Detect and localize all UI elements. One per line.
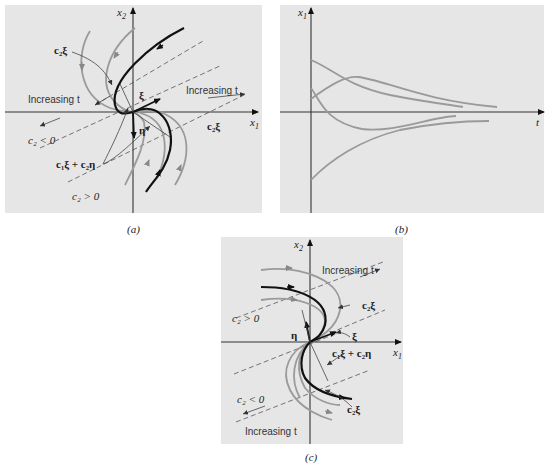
panel-a-caption: (a) — [127, 223, 140, 236]
panel-c-xi-label: ξ — [352, 330, 357, 343]
panel-a-c2-lt-0-label: c₂ < 0 — [28, 134, 56, 146]
panel-b-caption: (b) — [395, 223, 408, 236]
panel-a-c2xi-top-label: c₂ξ — [54, 44, 67, 57]
panel-c-c1xi-c2eta-label: c₁ξ + c₂η — [332, 347, 371, 360]
panel-c-caption: (c) — [305, 451, 318, 464]
figure-canvas: x2 x1 c₂ξ Increasing t Increasing t ξ η … — [0, 0, 549, 466]
panel-a-increasing-t-right-label: Increasing t — [186, 85, 238, 96]
panel-a-increasing-t-left-label: Increasing t — [28, 94, 80, 105]
panel-c-increasing-t-bottom-label: Increasing t — [245, 426, 297, 437]
panel-a-eta-vector — [133, 112, 134, 138]
panel-c-increasing-t-top-label: Increasing t — [322, 265, 374, 276]
panel-a-xi-label: ξ — [139, 89, 144, 102]
panel-c: x2 x1 Increasing t c₂ξ c₂ > 0 η ξ c₁ξ + … — [221, 237, 403, 464]
panel-c-c2xi-top-label: c₂ξ — [362, 299, 375, 312]
panel-b: x1 t (b) — [280, 5, 544, 236]
panel-c-c2xi-bottom-label: c₂ξ — [347, 403, 360, 416]
panel-c-c2-gt-0-label: c₂ > 0 — [232, 312, 260, 324]
panel-a-eta-label: η — [139, 124, 145, 136]
panel-a: x2 x1 c₂ξ Increasing t Increasing t ξ η … — [5, 5, 262, 236]
panel-a-c1xi-c2eta-label: c₁ξ + c₂η — [56, 158, 95, 171]
panel-c-eta-label: η — [291, 329, 297, 341]
panel-a-c2xi-right-label: c₂ξ — [207, 120, 220, 133]
panel-a-c2-gt-0-label: c₂ > 0 — [72, 190, 100, 202]
panel-b-background — [280, 5, 544, 213]
panel-c-c2-lt-0-label: c₂ < 0 — [237, 393, 265, 405]
